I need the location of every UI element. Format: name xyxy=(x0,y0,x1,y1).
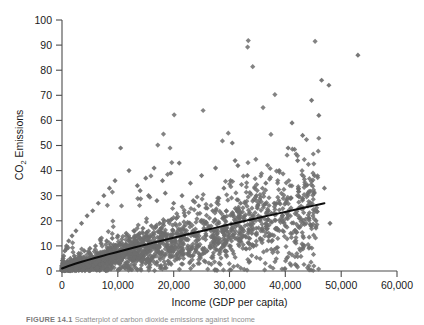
plot-background xyxy=(0,0,424,325)
y-tick-label: 70 xyxy=(40,89,52,101)
y-tick-label: 30 xyxy=(40,190,52,202)
x-axis-title: Income (GDP per capita) xyxy=(172,296,288,308)
x-tick-label: 0 xyxy=(59,279,65,291)
x-tick-label: 10,000 xyxy=(102,279,134,291)
y-tick-label: 20 xyxy=(40,215,52,227)
x-tick-label: 20,000 xyxy=(158,279,190,291)
x-tick-label: 30,000 xyxy=(213,279,245,291)
figure-caption-text: Scatterplot of carbon dioxide emissions … xyxy=(75,315,255,324)
figure-container: 100 90 80 70 60 50 40 30 20 10 0 0 10,00… xyxy=(0,0,424,325)
y-axis-title-rest: Emissions xyxy=(13,110,25,161)
y-tick-label: 0 xyxy=(46,265,52,277)
x-tick-label: 40,000 xyxy=(269,279,301,291)
y-tick-label: 90 xyxy=(40,39,52,51)
y-tick-label: 50 xyxy=(40,139,52,151)
x-tick-label: 50,000 xyxy=(325,279,357,291)
scatter-plot: 100 90 80 70 60 50 40 30 20 10 0 0 10,00… xyxy=(0,0,424,325)
y-tick-label: 100 xyxy=(34,14,52,26)
y-tick-label: 80 xyxy=(40,64,52,76)
figure-caption: FIGURE 14.1 Scatterplot of carbon dioxid… xyxy=(26,315,418,324)
y-tick-label: 60 xyxy=(40,114,52,126)
y-axis-title-base: CO xyxy=(13,165,25,181)
y-tick-label: 40 xyxy=(40,164,52,176)
x-tick-label: 60,000 xyxy=(381,279,413,291)
y-tick-label: 10 xyxy=(40,240,52,252)
figure-caption-number: FIGURE 14.1 xyxy=(26,315,73,324)
